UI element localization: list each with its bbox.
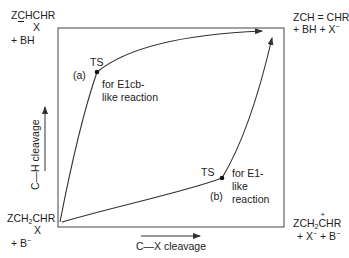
label-bottom-right-line1: ZCH2+CHR <box>293 217 341 229</box>
label-bottom-left-line3: + B− <box>11 237 31 249</box>
label-bottom-left-line1: ZCH2CHR <box>7 212 55 224</box>
label-top-left-line1: ZCHCHR <box>11 9 55 21</box>
x-axis-label: C—X cleavage <box>136 240 206 252</box>
label-bottom-left-line2: X <box>34 224 41 236</box>
ts-point-a <box>95 70 100 75</box>
label-top-right-line2: + BH + X− <box>293 23 340 35</box>
path-b-note-line3: reaction <box>232 193 269 205</box>
carbanion-carbon: C <box>17 9 25 21</box>
path-b-note-line2: like <box>232 180 248 192</box>
path-a-note-line2: like reaction <box>102 91 158 103</box>
label-bottom-right-line2: + X− + B− <box>297 230 340 242</box>
label-top-left-line3: + BH <box>11 34 35 46</box>
y-axis-label: C—H cleavage <box>29 119 41 190</box>
path-a-note-line1: for E1cb- <box>102 78 145 90</box>
label-top-right-line1: ZCH = CHR <box>293 11 349 23</box>
ts-label-b: TS <box>201 166 214 178</box>
label-top-left-line2: X <box>33 21 40 33</box>
path-marker-b: (b) <box>210 190 223 202</box>
path-b-note-line1: for E1- <box>232 167 264 179</box>
ts-label-a: TS <box>90 56 103 68</box>
ts-point-b <box>220 176 225 181</box>
carbocation-carbon: +C <box>319 217 327 229</box>
path-marker-a: (a) <box>73 69 86 81</box>
